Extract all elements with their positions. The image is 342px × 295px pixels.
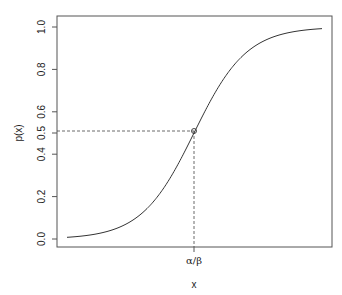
y-tick-0.6: 0.6 xyxy=(36,104,47,118)
y-tick-labels: 0.0 0.2 0.4 0.5 0.6 0.8 1.0 xyxy=(36,20,47,246)
y-tick-0.5: 0.5 xyxy=(36,126,47,140)
logistic-chart: 0.0 0.2 0.4 0.5 0.6 0.8 1.0 p(x) α/β x xyxy=(0,0,342,295)
y-axis-label: p(x) xyxy=(13,124,24,141)
y-axis xyxy=(52,27,57,239)
x-tick-label: α/β xyxy=(186,255,202,266)
y-tick-0.2: 0.2 xyxy=(36,189,47,203)
y-tick-0.8: 0.8 xyxy=(36,62,47,76)
y-tick-0.0: 0.0 xyxy=(36,232,47,246)
logistic-curve xyxy=(67,29,322,238)
x-axis-label: x xyxy=(192,279,197,290)
y-tick-0.4: 0.4 xyxy=(36,147,47,161)
y-tick-1.0: 1.0 xyxy=(36,20,47,34)
